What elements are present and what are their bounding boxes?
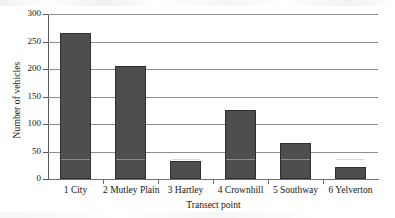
- bar-chart-figure: Number of vehicles 050100150200250300 1 …: [0, 0, 395, 218]
- y-tick-mark: [43, 97, 48, 98]
- x-tick-label: 5 Southway: [268, 185, 323, 195]
- scan-noise-top: [0, 0, 395, 6]
- y-tick-mark: [43, 42, 48, 43]
- y-tick-label: 250: [0, 37, 41, 46]
- x-tick-mark: [268, 180, 269, 184]
- gridline: [48, 42, 378, 43]
- x-tick-label: 3 Hartley: [158, 185, 213, 195]
- bar: [225, 110, 256, 179]
- y-tick-label: 50: [0, 147, 41, 156]
- x-tick-mark: [323, 180, 324, 184]
- y-tick-mark: [43, 179, 48, 180]
- bar: [335, 167, 366, 179]
- x-tick-mark: [103, 180, 104, 184]
- gridline: [48, 97, 378, 98]
- x-tick-label: 6 Yelverton: [323, 185, 378, 195]
- x-tick-label: 4 Crownhill: [213, 185, 268, 195]
- y-tick-mark: [43, 152, 48, 153]
- bar: [280, 143, 311, 179]
- bar: [170, 161, 201, 179]
- x-tick-mark: [158, 180, 159, 184]
- y-tick-label: 0: [0, 174, 41, 183]
- plot-area: [48, 14, 378, 179]
- x-tick-label: 1 City: [48, 185, 103, 195]
- y-tick-mark: [43, 14, 48, 15]
- scan-noise-bottom: [0, 212, 395, 218]
- y-tick-label: 150: [0, 92, 41, 101]
- y-tick-label: 100: [0, 119, 41, 128]
- bar: [115, 66, 146, 179]
- gridline: [48, 124, 378, 125]
- x-axis-title: Transect point: [48, 200, 379, 210]
- y-tick-label: 200: [0, 64, 41, 73]
- gridline: [48, 69, 378, 70]
- bar: [60, 33, 91, 179]
- x-tick-label: 2 Mutley Plain: [103, 185, 158, 195]
- y-tick-mark: [43, 124, 48, 125]
- gridline: [48, 152, 378, 153]
- x-tick-mark: [213, 180, 214, 184]
- gridline: [48, 14, 378, 15]
- y-tick-mark: [43, 69, 48, 70]
- y-tick-label: 300: [0, 9, 41, 18]
